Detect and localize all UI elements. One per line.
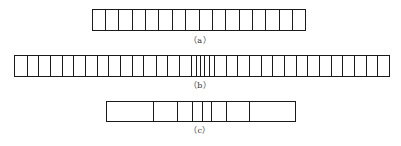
cell-divider (226, 56, 227, 76)
cell-divider (177, 102, 178, 121)
cell-divider (342, 56, 343, 76)
cell-divider (226, 102, 227, 121)
cell-divider (73, 56, 74, 76)
cell-divider (331, 56, 332, 76)
cell-divider (120, 56, 121, 76)
cell-divider (105, 10, 106, 30)
cell-divider (172, 10, 173, 30)
cell-divider (145, 10, 146, 30)
cell-divider (200, 56, 201, 76)
cell-divider (319, 56, 320, 76)
caption-a: （a） (180, 36, 220, 46)
cell-divider (132, 56, 133, 76)
cell-divider (284, 56, 285, 76)
cell-divider (185, 10, 186, 30)
cell-divider (156, 56, 157, 76)
cell-divider (252, 10, 253, 30)
cell-divider (143, 56, 144, 76)
strip-c (106, 101, 296, 122)
strip-a (92, 9, 306, 31)
cell-divider (239, 10, 240, 30)
cell-divider (354, 56, 355, 76)
cell-divider (158, 10, 159, 30)
cell-divider (296, 56, 297, 76)
cell-divider (265, 10, 266, 30)
cell-divider (85, 56, 86, 76)
cell-divider (132, 10, 133, 30)
cell-divider (272, 56, 273, 76)
caption-c: （c） (180, 126, 220, 136)
strip-b (14, 55, 390, 77)
cell-divider (212, 10, 213, 30)
cell-divider (225, 10, 226, 30)
cell-divider (292, 10, 293, 30)
cell-divider (199, 10, 200, 30)
cell-divider (237, 56, 238, 76)
cell-divider (153, 102, 154, 121)
cell-divider (366, 56, 367, 76)
cell-divider (214, 56, 215, 76)
cell-divider (167, 56, 168, 76)
cell-divider (377, 56, 378, 76)
cell-divider (108, 56, 109, 76)
cell-divider (118, 10, 119, 30)
cell-divider (192, 102, 193, 121)
cell-divider (249, 102, 250, 121)
cell-divider (27, 56, 28, 76)
cell-divider (307, 56, 308, 76)
cell-divider (196, 56, 197, 76)
cell-divider (191, 56, 192, 76)
cell-divider (261, 56, 262, 76)
caption-b: （b） (180, 81, 220, 91)
cell-divider (209, 56, 210, 76)
cell-divider (179, 56, 180, 76)
cell-divider (204, 56, 205, 76)
cell-divider (202, 102, 203, 121)
cell-divider (97, 56, 98, 76)
cell-divider (38, 56, 39, 76)
cell-divider (50, 56, 51, 76)
cell-divider (62, 56, 63, 76)
cell-divider (249, 56, 250, 76)
cell-divider (279, 10, 280, 30)
cell-divider (211, 102, 212, 121)
